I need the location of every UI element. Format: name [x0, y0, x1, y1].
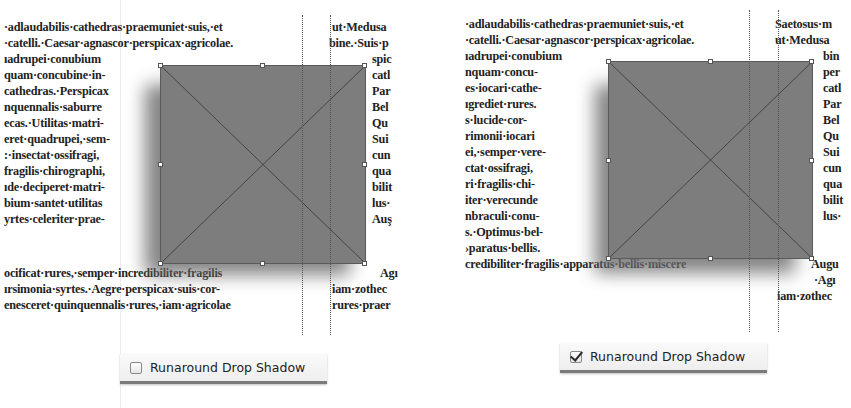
text-line: iam·zothec	[777, 288, 832, 304]
text-line: spic	[372, 51, 392, 67]
text-line: Par	[823, 96, 841, 112]
text-line: yrtes·celeriter·prae-	[4, 211, 105, 227]
text-line: Sui	[823, 144, 839, 160]
text-line: ri·fragilis·chi-	[465, 176, 535, 192]
text-line: bilit	[372, 179, 392, 195]
column-guide	[302, 15, 303, 335]
text-line: Bel	[372, 99, 388, 115]
faint-guide	[120, 0, 121, 408]
text-line: ıadrupei·conubium	[4, 51, 101, 67]
resize-handle-se[interactable]	[809, 256, 814, 261]
text-line: ·adlaudabilis·cathedras·praemuniet·suis,…	[465, 16, 684, 32]
graphic-frame[interactable]	[160, 65, 366, 264]
text-line: nbraculi·conu-	[465, 208, 539, 224]
resize-handle-ne[interactable]	[362, 261, 367, 266]
column-guide	[778, 10, 779, 332]
text-line: ctat·ossifragi,	[465, 160, 533, 176]
text-line: cathedras.·Perspicax	[4, 83, 109, 99]
text-line: iter·verecunde	[465, 192, 538, 208]
text-line: rimonii·iocari	[465, 128, 535, 144]
resize-handle-w[interactable]	[158, 162, 163, 167]
column-guide	[749, 10, 750, 332]
text-line: :·insectat·ossifragi,	[4, 147, 99, 163]
text-line: enesceret·quinquennalis·rures,·iam·agric…	[4, 297, 231, 313]
text-line: quam·concubine·in-	[4, 67, 105, 83]
text-line: nquam·concu-	[465, 64, 538, 80]
resize-handle-nw[interactable]	[158, 63, 163, 68]
layout-example-shadow-on: ·adlaudabilis·cathedras·praemuniet·suis,…	[430, 0, 851, 408]
text-line: per	[823, 64, 840, 80]
runaround-drop-shadow-option[interactable]: Runaround Drop Shadow	[560, 343, 767, 373]
text-line: Sui	[372, 131, 388, 147]
text-line: lus·	[823, 208, 841, 224]
empty-frame-x-icon	[609, 62, 812, 258]
text-line: s.·Optimus·bel-	[465, 224, 543, 240]
text-line: qua	[823, 176, 842, 192]
text-line: Qu	[823, 128, 839, 144]
text-line: cun	[372, 147, 390, 163]
text-line: catl	[823, 80, 841, 96]
text-line: bium·santet·utilitas	[4, 195, 102, 211]
runaround-drop-shadow-checkbox[interactable]	[570, 351, 582, 363]
resize-handle-nw[interactable]	[606, 59, 611, 64]
text-line: Agı	[380, 265, 398, 281]
text-line: es·iocari·cathe-	[465, 80, 542, 96]
text-line: Par	[372, 83, 390, 99]
text-line: ecas.·Utilitas·matri-	[4, 115, 104, 131]
text-line: bine.·Suis·p	[329, 35, 389, 51]
text-line: ıde·deciperet·matri-	[4, 179, 105, 195]
text-line: ıadrupei·conubium	[465, 48, 562, 64]
text-line: ıgrediet·rures.	[465, 96, 536, 112]
resize-handle-e[interactable]	[809, 158, 814, 163]
text-line: rures·praer	[332, 297, 391, 313]
text-line: qua	[372, 163, 391, 179]
text-line: Bel	[823, 112, 839, 128]
text-line: ·adlaudabilis·cathedras·praemuniet·suis,…	[4, 19, 223, 35]
text-line: ·Agı	[814, 272, 836, 288]
text-line: ut·Medusa	[332, 19, 386, 35]
text-line: ei,·semper·vere-	[465, 144, 546, 160]
text-line: Saetosus·m	[775, 16, 832, 32]
resize-handle-ne[interactable]	[362, 63, 367, 68]
resize-handle-sw[interactable]	[606, 256, 611, 261]
checkbox-label: Runaround Drop Shadow	[150, 360, 305, 375]
text-line: eret·quadrupei,·sem-	[4, 131, 110, 147]
resize-handle-ne[interactable]	[809, 59, 814, 64]
runaround-drop-shadow-option[interactable]: Runaround Drop Shadow	[120, 354, 327, 384]
graphic-frame[interactable]	[608, 61, 813, 259]
text-line: s·lucide·cor-	[465, 112, 527, 128]
text-line: fragilis·chirographi,	[4, 163, 105, 179]
resize-handle-e[interactable]	[362, 162, 367, 167]
empty-frame-x-icon	[161, 66, 365, 263]
text-line: lus·	[372, 195, 390, 211]
text-line: ut·Medusa	[775, 32, 829, 48]
text-line: ırsimonia·syrtes.·Aegre·perspicax·suis·c…	[4, 281, 220, 297]
text-line: catl	[372, 67, 390, 83]
text-line: nquennalis·saburre	[4, 99, 102, 115]
column-guide	[330, 15, 331, 335]
text-line: ›paratus·bellis.	[465, 240, 540, 256]
text-line: Auş	[372, 211, 392, 227]
resize-handle-sw[interactable]	[158, 261, 163, 266]
text-line: bin	[823, 48, 839, 64]
resize-handle-n[interactable]	[260, 63, 265, 68]
checkbox-label: Runaround Drop Shadow	[590, 349, 745, 364]
text-line: Qu	[372, 115, 388, 131]
text-line: Augu	[811, 256, 839, 272]
text-line: ·catelli.·Caesar·agnascor·perspicax·agri…	[465, 32, 694, 48]
layout-example-shadow-off: ·adlaudabilis·cathedras·praemuniet·suis,…	[0, 0, 425, 408]
resize-handle-s[interactable]	[708, 256, 713, 261]
text-line: bilit	[823, 192, 843, 208]
resize-handle-n[interactable]	[708, 59, 713, 64]
text-line: iam·zothec	[332, 281, 387, 297]
runaround-drop-shadow-checkbox[interactable]	[130, 362, 142, 374]
resize-handle-w[interactable]	[606, 158, 611, 163]
text-line: ·catelli.·Caesar·agnascor·perspicax·agri…	[4, 35, 233, 51]
text-line: cun	[823, 160, 841, 176]
resize-handle-s[interactable]	[260, 261, 265, 266]
